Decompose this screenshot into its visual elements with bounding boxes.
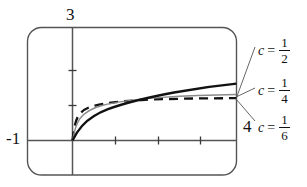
curve-label-c-one-sixth: c = 1 6 bbox=[258, 113, 290, 143]
fraction-denominator: 4 bbox=[279, 92, 290, 105]
leader-lines bbox=[236, 47, 255, 121]
curve-label-equals: = bbox=[267, 84, 279, 98]
curve-label-c-one-quarter: c = 1 4 bbox=[258, 76, 290, 106]
x-axis-max-label: 4 bbox=[243, 118, 252, 135]
curve-c-one-quarter bbox=[73, 95, 237, 141]
fraction-denominator: 2 bbox=[279, 52, 290, 65]
y-axis-min-label: -1 bbox=[6, 130, 20, 147]
curve-label-variable: c bbox=[258, 44, 267, 58]
curve-c-one-sixth bbox=[73, 98, 237, 140]
curve-label-variable: c bbox=[258, 84, 267, 98]
curve-label-variable: c bbox=[258, 121, 267, 135]
curve-label-equals: = bbox=[267, 44, 279, 58]
fraction-numerator: 1 bbox=[279, 36, 290, 49]
fraction-numerator: 1 bbox=[279, 113, 290, 126]
fraction-denominator: 6 bbox=[279, 129, 290, 142]
leader-line-c-one-half bbox=[236, 47, 255, 99]
curve-label-fraction: 1 4 bbox=[279, 76, 290, 106]
curve-label-c-one-half: c = 1 2 bbox=[258, 36, 290, 66]
curve-label-equals: = bbox=[267, 121, 279, 135]
curve-label-fraction: 1 6 bbox=[279, 113, 290, 143]
fraction-numerator: 1 bbox=[279, 76, 290, 89]
y-axis-max-label: 3 bbox=[66, 6, 75, 23]
curve-label-fraction: 1 2 bbox=[279, 36, 290, 66]
curve-c-one-half bbox=[73, 84, 237, 141]
